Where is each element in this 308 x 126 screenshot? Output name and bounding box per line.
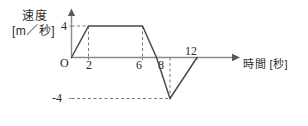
velocity-curve — [72, 26, 198, 99]
x-axis-arrow-icon — [232, 54, 240, 61]
y-axis-arrow-icon — [68, 9, 75, 17]
graph-svg — [0, 0, 308, 126]
velocity-time-graph: 速度 [m／秒] 時間 [秒] 4 -4 O 2 6 8 12 — [0, 0, 308, 126]
